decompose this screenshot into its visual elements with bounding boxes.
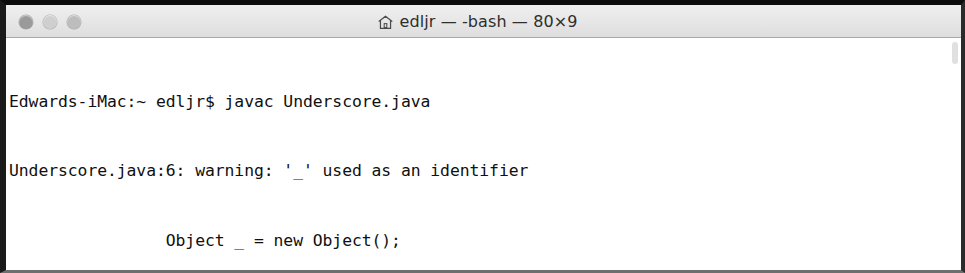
- home-icon: [378, 15, 393, 30]
- terminal-line: Edwards-iMac:~ edljr$ javac Underscore.j…: [9, 90, 961, 113]
- terminal-line: Underscore.java:6: warning: '_' used as …: [9, 159, 961, 182]
- zoom-button[interactable]: [67, 15, 81, 29]
- terminal-line: Object _ = new Object();: [9, 229, 961, 252]
- terminal-window: edljr — -bash — 80×9 Edwards-iMac:~ edlj…: [0, 0, 965, 273]
- window-titlebar[interactable]: edljr — -bash — 80×9: [6, 5, 961, 38]
- window-title-group: edljr — -bash — 80×9: [378, 12, 578, 31]
- terminal-body[interactable]: Edwards-iMac:~ edljr$ javac Underscore.j…: [6, 38, 961, 270]
- minimize-button[interactable]: [43, 15, 57, 29]
- window-title: edljr — -bash — 80×9: [400, 12, 578, 31]
- vertical-scrollbar[interactable]: [951, 38, 960, 270]
- terminal-screen: Edwards-iMac:~ edljr$ javac Underscore.j…: [9, 44, 961, 270]
- window-controls: [19, 5, 81, 38]
- scrollbar-thumb[interactable]: [952, 42, 958, 64]
- close-button[interactable]: [19, 15, 33, 29]
